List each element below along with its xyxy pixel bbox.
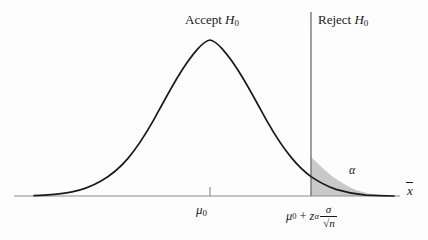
- critical-value-label: μ0 + zα σ √n: [286, 204, 337, 229]
- accept-hypothesis-subscript: 0: [234, 18, 239, 28]
- accept-word: Accept: [185, 12, 222, 27]
- fraction-numerator-sigma: σ: [325, 204, 332, 216]
- mu0-axis-label: μ0: [196, 203, 207, 218]
- standard-error-fraction: σ √n: [320, 204, 337, 229]
- fraction-denominator: √n: [321, 217, 336, 229]
- critical-plus-sign: +: [300, 210, 307, 223]
- reject-hypothesis-symbol: H: [354, 12, 363, 27]
- reject-region-label: Reject H0: [318, 13, 368, 28]
- normal-curve-final: [34, 40, 394, 196]
- hypothesis-test-figure: Accept H0 Reject H0 α μ0 x μ0 + zα σ √n: [0, 0, 428, 240]
- radicand-n: n: [329, 217, 335, 229]
- alpha-area-label: α: [349, 164, 355, 176]
- mu0-subscript: 0: [203, 208, 208, 218]
- xbar-axis-label: x: [407, 184, 413, 197]
- reject-word: Reject: [318, 12, 351, 27]
- critical-mu-subscript: 0: [292, 212, 296, 221]
- critical-z-subscript: α: [314, 212, 318, 221]
- reject-hypothesis-subscript: 0: [364, 18, 369, 28]
- accept-region-label: Accept H0: [185, 13, 239, 28]
- square-root-symbol: √: [322, 218, 329, 229]
- xbar-symbol: x: [407, 184, 413, 197]
- normal-curve-overlay: [0, 0, 428, 240]
